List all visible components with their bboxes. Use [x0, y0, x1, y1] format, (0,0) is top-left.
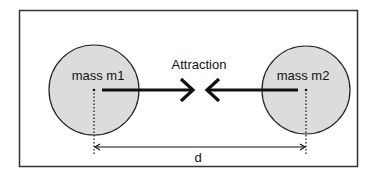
attraction-label: Attraction: [172, 57, 227, 72]
distance-label: d: [194, 150, 201, 165]
mass-m1-center-point: [93, 89, 96, 92]
mass-m2-center-point: [305, 89, 308, 92]
mass-m2-label: mass m2: [277, 68, 330, 83]
gravity-diagram: mass m1 mass m2 Attraction d: [0, 0, 377, 177]
mass-m1-label: mass m1: [72, 68, 125, 83]
